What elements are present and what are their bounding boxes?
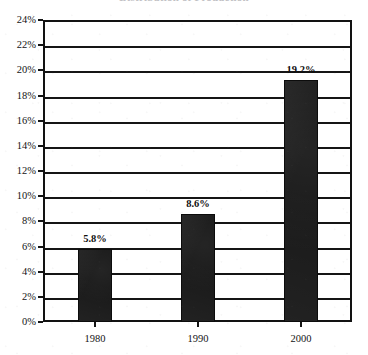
y-axis-tick-label: 22% xyxy=(2,40,36,51)
bar-1990 xyxy=(181,214,215,322)
x-axis-tick-mark xyxy=(300,322,302,327)
y-axis-tick-label: 24% xyxy=(2,15,36,26)
y-axis-tick-mark xyxy=(38,220,43,222)
x-axis-tick-mark xyxy=(197,322,199,327)
x-axis-tick-label-1990: 1990 xyxy=(158,334,238,345)
bar-chart-figure: Distribution of Production 0%2%4%6%8%10%… xyxy=(0,0,368,355)
bar-2000 xyxy=(284,80,318,322)
bar-1980 xyxy=(78,249,112,322)
y-axis-tick-mark xyxy=(38,246,43,248)
bar-value-label-1990: 8.6% xyxy=(158,199,238,210)
y-axis-tick-label: 16% xyxy=(2,116,36,127)
bar-value-label-1980: 5.8% xyxy=(55,234,135,245)
y-axis-tick-label: 14% xyxy=(2,141,36,152)
y-axis-tick-label: 4% xyxy=(2,267,36,278)
gridline xyxy=(45,46,350,48)
y-axis-tick-mark xyxy=(38,321,43,323)
y-axis-tick-mark xyxy=(38,170,43,172)
x-axis-tick-mark xyxy=(94,322,96,327)
chart-title: Distribution of Production xyxy=(0,0,368,3)
y-axis-tick-mark xyxy=(38,95,43,97)
x-axis-tick-label-1980: 1980 xyxy=(55,334,135,345)
x-axis-tick-label-2000: 2000 xyxy=(261,334,341,345)
y-axis-tick-label: 0% xyxy=(2,317,36,328)
y-axis-tick-label: 18% xyxy=(2,91,36,102)
y-axis-tick-mark xyxy=(38,195,43,197)
y-axis-tick-label: 12% xyxy=(2,166,36,177)
y-axis-tick-label: 8% xyxy=(2,216,36,227)
y-axis-tick-mark xyxy=(38,120,43,122)
y-axis-tick-mark xyxy=(38,44,43,46)
y-axis-tick-mark xyxy=(38,145,43,147)
y-axis-tick-label: 10% xyxy=(2,191,36,202)
y-axis-tick-label: 2% xyxy=(2,292,36,303)
bar-value-label-2000: 19.2% xyxy=(261,65,341,76)
y-axis-tick-mark xyxy=(38,19,43,21)
y-axis-tick-label: 20% xyxy=(2,65,36,76)
y-axis-tick-label: 6% xyxy=(2,242,36,253)
y-axis-tick-mark xyxy=(38,296,43,298)
y-axis-tick-mark xyxy=(38,69,43,71)
y-axis-tick-mark xyxy=(38,271,43,273)
